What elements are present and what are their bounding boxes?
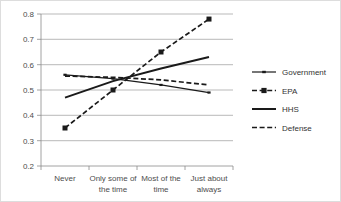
legend-item-hhs[interactable]: HHS (252, 105, 299, 114)
legend-label: Defense (282, 124, 312, 133)
y-tick-label: 0.3 (23, 137, 35, 146)
x-category-label-line2: time (153, 185, 169, 194)
x-axis-labels: Never Only some of the time Most of the … (54, 174, 228, 194)
legend-label: EPA (282, 87, 298, 96)
data-point-marker (207, 17, 212, 22)
y-tick-label: 0.5 (23, 86, 35, 95)
legend-label: HHS (282, 105, 299, 114)
x-category-label: Most of the (141, 174, 181, 183)
chart-page: 0.8 0.7 0.6 0.5 0.4 0.3 0.2 Never Only s… (0, 0, 341, 202)
y-axis-labels: 0.8 0.7 0.6 0.5 0.4 0.3 0.2 (23, 10, 35, 171)
x-category-label: Just about (191, 174, 229, 183)
x-category-label: Only some of (89, 174, 137, 183)
data-point-marker (159, 50, 164, 55)
x-tickmarks (41, 166, 233, 170)
legend-label: Government (282, 68, 327, 77)
legend-item-defense[interactable]: Defense (252, 124, 312, 133)
x-category-label-line2: always (197, 185, 221, 194)
y-tick-label: 0.8 (23, 10, 35, 19)
legend-swatch-marker (261, 88, 266, 93)
x-category-label: Never (54, 174, 76, 183)
line-chart: 0.8 0.7 0.6 0.5 0.4 0.3 0.2 Never Only s… (0, 0, 341, 202)
data-point-marker (159, 84, 162, 86)
legend-swatch-marker (262, 71, 266, 73)
legend-item-epa[interactable]: EPA (252, 87, 298, 96)
y-tick-label: 0.4 (23, 111, 35, 120)
y-tick-label: 0.6 (23, 61, 35, 70)
data-point-marker (111, 88, 116, 93)
chart-legend: GovernmentEPAHHSDefense (252, 68, 327, 133)
legend-item-government[interactable]: Government (252, 68, 327, 77)
data-point-marker (207, 91, 210, 93)
data-point-marker (63, 126, 68, 131)
y-tickmarks (37, 14, 41, 166)
y-tick-label: 0.2 (23, 162, 35, 171)
y-tick-label: 0.7 (23, 35, 35, 44)
x-category-label-line2: the time (99, 185, 128, 194)
